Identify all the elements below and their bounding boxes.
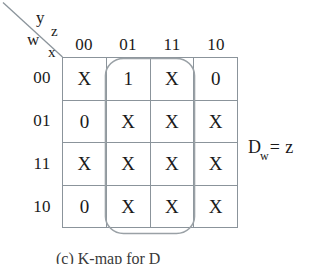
- kmap-row: X 1 X 0: [63, 58, 238, 101]
- kmap-cell: 0: [194, 58, 238, 101]
- kmap-cell: X: [194, 186, 238, 229]
- variable-label-w: w: [27, 31, 39, 48]
- equation-subscript: w: [260, 149, 269, 163]
- kmap-cell: X: [63, 58, 107, 101]
- kmap-cell: 1: [107, 58, 151, 101]
- row-header-11: 11: [22, 143, 62, 186]
- kmap-cell: X: [151, 101, 195, 144]
- row-header-01: 01: [22, 100, 62, 143]
- column-header-00: 00: [62, 33, 106, 57]
- output-equation: Dw= z: [248, 138, 293, 160]
- variable-label-y: y: [36, 9, 45, 26]
- column-header-01: 01: [106, 33, 150, 57]
- kmap-row: X X X X: [63, 143, 238, 186]
- kmap-row: 0 X X X: [63, 186, 238, 229]
- variable-label-z: z: [51, 24, 58, 39]
- column-header-row: 00 01 11 10: [62, 33, 238, 57]
- kmap-cell: X: [151, 143, 195, 186]
- kmap-cell: X: [194, 101, 238, 144]
- equation-operator: =: [270, 137, 280, 157]
- row-header-00: 00: [22, 57, 62, 100]
- kmap-cell: 0: [63, 186, 107, 229]
- row-header-column: 00 01 11 10: [22, 57, 62, 228]
- figure-caption: (c) K-map for D: [56, 251, 256, 264]
- equation-value: z: [285, 137, 293, 157]
- kmap-cell: X: [107, 101, 151, 144]
- karnaugh-map-figure: y z w x 00 01 11 10 00 01 11 10 X 1 X 0 …: [0, 0, 321, 264]
- kmap-row: 0 X X X: [63, 101, 238, 144]
- column-header-11: 11: [150, 33, 194, 57]
- kmap-cell: X: [63, 143, 107, 186]
- kmap-corner-header: y z w x: [0, 0, 66, 60]
- column-header-10: 10: [194, 33, 238, 57]
- kmap-cell: 0: [63, 101, 107, 144]
- kmap-cell: X: [107, 143, 151, 186]
- kmap-cell: X: [151, 58, 195, 101]
- kmap-grid: X 1 X 0 0 X X X X X X X 0 X X X: [62, 57, 238, 228]
- row-header-10: 10: [22, 185, 62, 228]
- kmap-cell: X: [194, 143, 238, 186]
- kmap-cell: X: [151, 186, 195, 229]
- kmap-cell: X: [107, 186, 151, 229]
